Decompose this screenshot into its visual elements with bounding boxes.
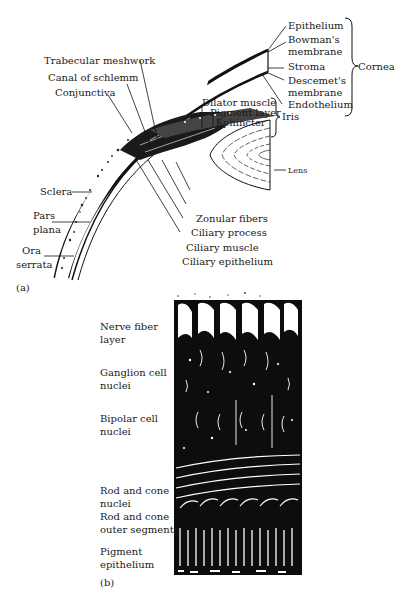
label-pars-plana-2: plana [33, 224, 61, 236]
layer-label-line: Rod and cone [100, 510, 179, 523]
label-iris: Iris [282, 111, 299, 123]
label-descemets-membrane-2: membrane [288, 87, 342, 99]
layer-label-line: Ganglion cell [100, 366, 167, 379]
panel-a-tag: (a) [16, 282, 30, 293]
layer-label-line: epithelium [100, 558, 154, 571]
label-ciliary-muscle: Ciliary muscle [186, 242, 259, 254]
layer-label-line: Bipolar cell [100, 412, 158, 425]
label-trabecular-meshwork: Trabecular meshwork [44, 55, 155, 67]
layer-label-bipolar-cell: Bipolar cell nuclei [100, 412, 158, 438]
layer-label-pigment-epithelium: Pigment epithelium [100, 545, 154, 571]
layer-label-line: nuclei [100, 425, 158, 438]
label-pars-plana-1: Pars [33, 210, 55, 222]
panel-b-tag: (b) [100, 577, 114, 588]
label-ciliary-process: Ciliary process [191, 227, 267, 239]
label-ora-serrata-2: serrata [16, 259, 53, 271]
layer-label-line: Pigment [100, 545, 154, 558]
layer-label-line: Nerve fiber [100, 320, 158, 333]
layer-label-rod-cone-outer-segments: Rod and cone outer segments [100, 510, 179, 536]
layer-label-line: nuclei [100, 379, 167, 392]
label-canal-of-schlemm: Canal of schlemm [48, 72, 139, 84]
label-conjunctiva: Conjunctiva [55, 87, 116, 99]
label-sclera: Sclera [40, 186, 72, 198]
layer-label-line: nuclei [100, 497, 169, 510]
layer-label-line: Rod and cone [100, 484, 169, 497]
eye-cross-section-diagram [0, 0, 408, 300]
layer-label-ganglion-cell: Ganglion cell nuclei [100, 366, 167, 392]
label-epithelium: Epithelium [288, 20, 344, 32]
label-cornea: Cornea [358, 61, 395, 73]
label-bowmans-membrane-2: membrane [288, 46, 342, 58]
layer-label-line: layer [100, 333, 158, 346]
layer-label-line: outer segments [100, 523, 179, 536]
label-stroma: Stroma [288, 61, 325, 73]
label-bowmans-membrane-1: Bowman's [288, 34, 340, 46]
label-endothelium: Endothelium [288, 99, 353, 111]
label-zonular-fibers: Zonular fibers [196, 213, 268, 225]
label-lens: Lens [288, 165, 307, 177]
label-ciliary-epithelium: Ciliary epithelium [182, 256, 273, 268]
layer-label-rod-cone-nuclei: Rod and cone nuclei [100, 484, 169, 510]
label-descemets-membrane-1: Descemet's [288, 75, 346, 87]
label-ora-serrata-1: Ora [22, 245, 41, 257]
layer-label-nerve-fiber: Nerve fiber layer [100, 320, 158, 346]
label-sphincter: Sphincter [216, 117, 266, 129]
